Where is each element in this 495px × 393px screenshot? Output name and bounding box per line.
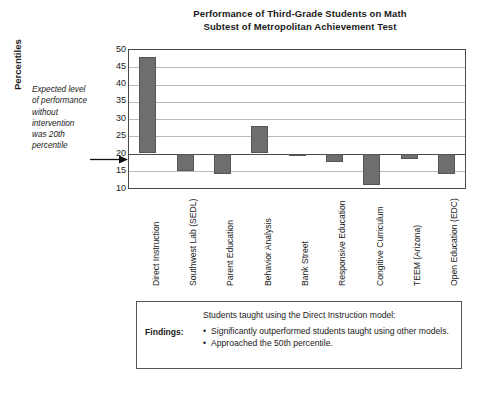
bars-layer	[129, 50, 465, 188]
bar	[401, 154, 418, 159]
y-tick-20: 20	[104, 148, 126, 158]
findings-box: Findings: Students taught using the Dire…	[136, 301, 462, 369]
finding-item-1-text: Significantly outperformed students taug…	[211, 326, 449, 336]
bullet-icon: •	[203, 326, 206, 337]
finding-item-2: • Approached the 50th percentile.	[203, 338, 453, 349]
bar	[289, 154, 306, 156]
x-tick-label: Bank Street	[300, 241, 310, 286]
findings-intro: Students taught using the Direct Instruc…	[203, 310, 453, 321]
plot-area	[128, 49, 466, 189]
annotation-line-6: percentile	[32, 140, 104, 151]
bar	[326, 154, 343, 163]
finding-item-2-text: Approached the 50th percentile.	[211, 338, 333, 348]
x-tick-label: Behavior Analysis	[263, 218, 273, 286]
chart-title-line-2: Subtest of Metropolitan Achievement Test	[120, 21, 480, 34]
x-tick-label: Parent Education	[225, 220, 235, 286]
annotation-line-4: intervention	[32, 118, 104, 129]
annotation-line-2: of performance	[32, 95, 104, 106]
x-tick-label: Open Education (EDC)	[449, 198, 459, 286]
x-tick-label: Responsive Education	[337, 200, 347, 286]
y-tick-25: 25	[104, 130, 126, 140]
bullet-icon: •	[203, 338, 206, 349]
y-tick-50: 50	[104, 44, 126, 54]
x-tick-label: Southwest Lab (SEDL)	[188, 199, 198, 286]
findings-label: Findings:	[145, 327, 184, 337]
annotation-line-3: without	[32, 107, 104, 118]
x-tick-label: Direct Instruction	[151, 222, 161, 286]
annotation-line-1: Expected level	[32, 84, 104, 95]
bar	[251, 126, 268, 154]
expected-level-annotation: Expected level of performance without in…	[32, 84, 104, 152]
y-tick-40: 40	[104, 78, 126, 88]
findings-body: Students taught using the Direct Instruc…	[203, 310, 453, 351]
bar	[363, 154, 380, 185]
chart-title-line-1: Performance of Third-Grade Students on M…	[120, 8, 480, 21]
y-axis-tick-labels: 50 45 40 35 30 25 20 15 10	[104, 43, 126, 195]
x-axis-tick-labels: Direct InstructionSouthwest Lab (SEDL)Pa…	[128, 190, 466, 290]
chart-title: Performance of Third-Grade Students on M…	[120, 8, 480, 33]
y-axis-label: Percentiles	[12, 10, 26, 90]
x-tick-label: Congitive Curriculum	[375, 206, 385, 286]
bar	[438, 154, 455, 175]
x-tick-label: TEEM (Arizona)	[412, 225, 422, 286]
annotation-line-5: was 20th	[32, 129, 104, 140]
bar	[177, 154, 194, 171]
finding-item-1: • Significantly outperformed students ta…	[203, 326, 453, 337]
bar	[214, 154, 231, 175]
y-tick-45: 45	[104, 61, 126, 71]
bar	[139, 57, 156, 154]
y-tick-10: 10	[104, 183, 126, 193]
y-tick-35: 35	[104, 95, 126, 105]
y-tick-15: 15	[104, 165, 126, 175]
y-tick-30: 30	[104, 113, 126, 123]
